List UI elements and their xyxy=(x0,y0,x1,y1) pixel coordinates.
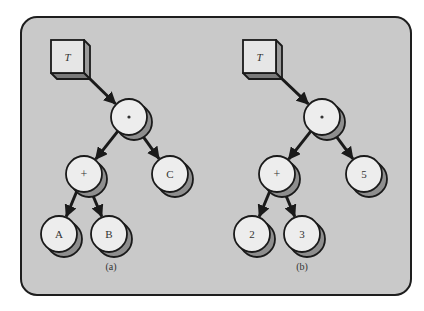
node-label: + xyxy=(274,167,281,181)
node-label: C xyxy=(166,168,173,180)
caption-a: (a) xyxy=(105,261,116,273)
multiply-dot-icon xyxy=(127,115,130,118)
node-label: 2 xyxy=(249,228,255,240)
node-label: B xyxy=(105,228,112,240)
expression-tree-figure: T+CABT+523 (a)(b) xyxy=(0,0,424,311)
caption-b: (b) xyxy=(296,261,308,273)
node-label: 5 xyxy=(361,168,367,180)
pointer-label: T xyxy=(256,51,263,63)
pointer-label: T xyxy=(64,51,71,63)
pointer-box-a: T xyxy=(51,40,90,79)
pointer-box-b: T xyxy=(243,40,282,79)
node-label: 3 xyxy=(299,228,305,240)
node-label: A xyxy=(55,228,63,240)
multiply-dot-icon xyxy=(320,115,323,118)
node-label: + xyxy=(81,167,88,181)
